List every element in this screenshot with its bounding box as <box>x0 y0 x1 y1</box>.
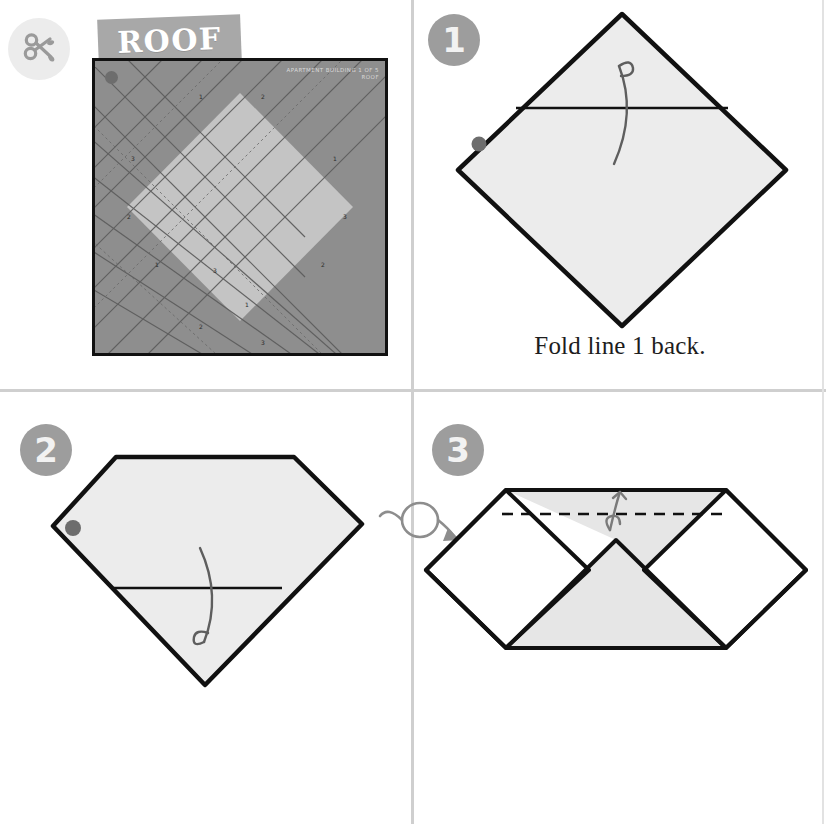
svg-text:2: 2 <box>321 261 325 268</box>
svg-text:2: 2 <box>261 93 265 100</box>
step-number-badge-3: 3 <box>432 424 484 476</box>
template-corner-dot <box>105 71 118 84</box>
svg-text:1: 1 <box>333 155 337 162</box>
template-label-line-2: ROOF <box>287 74 379 81</box>
panel-template: ROOF <box>0 0 411 389</box>
svg-text:1: 1 <box>199 93 203 100</box>
step-2-figure <box>48 452 368 692</box>
svg-text:2: 2 <box>199 323 203 330</box>
template-printed-label: APARTMENT BUILDING 1 OF 5 ROOF <box>287 67 379 81</box>
instruction-sheet: ROOF <box>0 0 826 824</box>
roof-banner-label: ROOF <box>117 21 223 60</box>
svg-text:1: 1 <box>245 301 249 308</box>
step-1-figure <box>452 8 792 328</box>
scissors-icon <box>19 29 59 69</box>
svg-text:2: 2 <box>127 213 131 220</box>
svg-text:3: 3 <box>213 267 217 274</box>
corner-dot-step-1 <box>472 137 487 152</box>
corner-dot-step-2 <box>65 520 81 536</box>
template-label-line-1: APARTMENT BUILDING 1 OF 5 <box>287 67 379 74</box>
template-crease-pattern: 12 31 23 12 31 23 <box>95 61 385 353</box>
scissors-badge <box>8 18 70 80</box>
template-paper: 12 31 23 12 31 23 APARTMENT BUILDING 1 O… <box>92 58 388 356</box>
step-1-caption-line-1: Fold line 1 back. <box>414 330 826 361</box>
svg-text:3: 3 <box>261 339 265 346</box>
svg-text:3: 3 <box>343 213 347 220</box>
panel-step-2: 2 Fold line 2 back. Flip the model over. <box>0 392 411 824</box>
paper-diamond <box>458 14 786 326</box>
svg-text:3: 3 <box>131 155 135 162</box>
svg-text:1: 1 <box>155 261 159 268</box>
panel-step-3: 3 Fold line 3 and unfold. <box>414 392 826 824</box>
panel-step-1: 1 Fold line 1 back. <box>414 0 826 389</box>
step-1-caption: Fold line 1 back. <box>414 330 826 361</box>
step-3-figure <box>424 482 814 682</box>
